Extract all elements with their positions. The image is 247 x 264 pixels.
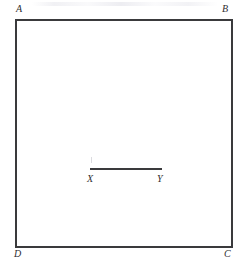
vertex-label-d: D <box>14 249 21 259</box>
segment-endpoint-label-y: Y <box>157 174 163 184</box>
segment-xy-line <box>90 168 162 170</box>
vertex-label-c: C <box>224 249 231 259</box>
rectangle-abcd-outline <box>15 19 233 248</box>
vertex-label-a: A <box>16 4 22 14</box>
figure-canvas: A B C D X Y <box>0 0 247 264</box>
segment-endpoint-label-x: X <box>87 174 93 184</box>
vertex-label-b: B <box>222 4 228 14</box>
scan-artifact-streak <box>32 2 218 6</box>
faint-tick-mark <box>91 157 92 163</box>
